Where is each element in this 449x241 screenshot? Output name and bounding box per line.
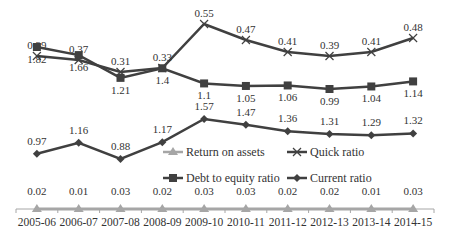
data-label: 0.03 [403, 185, 423, 197]
square-marker [117, 74, 125, 82]
data-label: 1.31 [320, 115, 339, 127]
data-label: 1.29 [362, 116, 382, 128]
x-tick-label: 2009-10 [185, 216, 224, 228]
diamond-marker [367, 131, 375, 139]
data-label: 1.4 [155, 74, 169, 86]
chart: 2005-062006-072007-082008-092009-102010-… [0, 0, 449, 241]
square-marker [284, 81, 292, 89]
diamond-marker [117, 155, 125, 163]
data-label: 0.39 [320, 39, 340, 51]
diamond-marker [33, 150, 41, 158]
square-marker [326, 85, 334, 93]
legend-item-quick-ratio: Quick ratio [287, 145, 364, 159]
data-label: 0.01 [362, 185, 381, 197]
data-label: 0.55 [194, 7, 214, 19]
x-tick-label: 2012-13 [310, 216, 349, 228]
square-marker [33, 43, 41, 51]
data-label: 0.47 [236, 23, 256, 35]
diamond-marker [326, 130, 334, 138]
series-line [37, 24, 413, 72]
diamond-marker [242, 121, 250, 129]
data-label: 1.82 [27, 53, 46, 65]
data-label: 0.41 [278, 35, 297, 47]
data-label: 0.48 [403, 21, 423, 33]
data-label: 1.17 [153, 123, 173, 135]
legend-label: Debt to equity ratio [186, 171, 280, 185]
x-tick-label: 2010-11 [227, 216, 265, 228]
x-tick-label: 2014-15 [394, 216, 433, 228]
data-label: 0.02 [27, 185, 46, 197]
data-label: 1.66 [69, 61, 89, 73]
data-label: 1.21 [111, 84, 130, 96]
diamond-marker [409, 129, 417, 137]
data-label: 1.06 [278, 91, 298, 103]
data-label: 0.33 [153, 51, 173, 63]
data-label: 0.03 [194, 185, 214, 197]
x-tick-label: 2006-07 [60, 216, 99, 228]
data-label: 0.02 [278, 185, 297, 197]
data-label: 1.32 [403, 114, 422, 126]
x-tick-label: 2008-09 [143, 216, 182, 228]
data-label: 0.02 [320, 185, 339, 197]
diamond-marker [284, 127, 292, 135]
data-label: 1.04 [362, 92, 382, 104]
data-label: 1.47 [236, 106, 256, 118]
data-label: 0.02 [153, 185, 172, 197]
square-marker [158, 64, 166, 72]
x-tick-label: 2013-14 [352, 216, 391, 228]
series-return-on-assets: 0.020.010.030.020.030.030.020.020.010.03 [27, 185, 423, 212]
legend-label: Current ratio [310, 171, 372, 185]
x-tick-label: 2005-06 [18, 216, 57, 228]
square-marker [75, 51, 83, 59]
data-label: 0.41 [362, 35, 381, 47]
data-label: 0.88 [111, 140, 131, 152]
legend-item-current-ratio: Current ratio [287, 171, 372, 185]
data-label: 0.01 [69, 185, 88, 197]
square-marker [169, 174, 177, 182]
data-label: 1.57 [194, 100, 214, 112]
legend-label: Quick ratio [310, 145, 364, 159]
data-label: 1.14 [403, 87, 423, 99]
data-label: 0.31 [111, 55, 130, 67]
square-marker [242, 82, 250, 90]
square-marker [367, 82, 375, 90]
diamond-marker [75, 139, 83, 147]
square-marker [409, 77, 417, 85]
x-tick-label: 2007-08 [101, 216, 140, 228]
x-tick-label: 2011-12 [269, 216, 307, 228]
data-label: 1.36 [278, 112, 298, 124]
legend-item-debt-to-equity-ratio: Debt to equity ratio [163, 171, 280, 185]
legend: Return on assetsQuick ratioDebt to equit… [163, 145, 372, 185]
data-label: 0.99 [320, 95, 340, 107]
data-label: 1.16 [69, 124, 89, 136]
legend-item-return-on-assets: Return on assets [163, 145, 265, 159]
legend-label: Return on assets [186, 145, 265, 159]
square-marker [200, 79, 208, 87]
data-label: 0.97 [27, 135, 47, 147]
data-label: 1.05 [236, 92, 256, 104]
data-label: 0.03 [111, 185, 131, 197]
diamond-marker [293, 174, 301, 182]
data-label: 0.03 [236, 185, 256, 197]
